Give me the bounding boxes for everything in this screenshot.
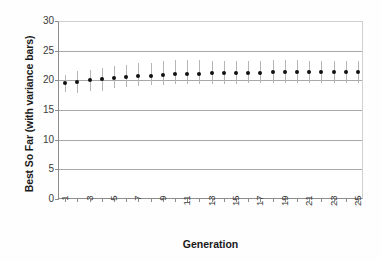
x-tick-label: 19 — [278, 196, 289, 222]
y-tick-label: 0 — [28, 194, 54, 204]
plot-area — [58, 21, 363, 199]
data-point — [258, 71, 262, 75]
x-tick-label: 1 — [59, 196, 70, 222]
gridline — [59, 21, 363, 22]
x-tick-label: 7 — [132, 196, 143, 222]
data-point — [271, 70, 275, 74]
y-tick-mark — [55, 51, 59, 52]
gridline — [59, 110, 363, 111]
y-tick-label: 25 — [28, 46, 54, 56]
y-tick-mark — [55, 21, 59, 22]
data-point — [246, 71, 250, 75]
x-tick-label: 15 — [229, 196, 240, 222]
x-tick-label: 21 — [303, 196, 314, 222]
x-tick-label: 25 — [351, 196, 362, 222]
data-point — [295, 70, 299, 74]
data-point — [356, 70, 360, 74]
data-point — [307, 70, 311, 74]
data-point — [63, 81, 67, 85]
gridline — [59, 169, 363, 170]
gridline — [59, 140, 363, 141]
x-tick-label: 13 — [205, 196, 216, 222]
x-tick-label: 11 — [181, 196, 192, 222]
x-axis-title: Generation — [58, 238, 363, 250]
gridline — [59, 51, 363, 52]
x-axis-tick-labels: 135791113151719212325 — [58, 199, 363, 235]
y-tick-mark — [55, 110, 59, 111]
chart-figure: Best So Far (with variance bars) 0510152… — [0, 0, 382, 262]
data-point — [319, 70, 323, 74]
x-tick-label: 17 — [254, 196, 265, 222]
data-point — [234, 71, 238, 75]
x-tick-label: 3 — [83, 196, 94, 222]
data-point — [75, 80, 79, 84]
data-point — [149, 74, 153, 78]
y-axis-tick-labels: 051015202530 — [26, 0, 54, 262]
data-point — [124, 75, 128, 79]
y-tick-mark — [55, 169, 59, 170]
x-tick-label: 5 — [107, 196, 118, 222]
data-point — [185, 72, 189, 76]
x-tick-label: 9 — [156, 196, 167, 222]
data-point — [344, 70, 348, 74]
data-point — [173, 72, 177, 76]
y-tick-label: 20 — [28, 75, 54, 85]
data-point — [210, 71, 214, 75]
data-point — [197, 72, 201, 76]
y-tick-label: 10 — [28, 135, 54, 145]
y-tick-mark — [55, 80, 59, 81]
x-tick-label: 23 — [327, 196, 338, 222]
data-point — [88, 78, 92, 82]
data-point — [161, 73, 165, 77]
y-tick-mark — [55, 140, 59, 141]
data-point — [283, 70, 287, 74]
y-tick-label: 30 — [28, 16, 54, 26]
data-point — [332, 70, 336, 74]
y-tick-label: 15 — [28, 105, 54, 115]
data-point — [222, 71, 226, 75]
data-point — [136, 74, 140, 78]
y-tick-label: 5 — [28, 164, 54, 174]
